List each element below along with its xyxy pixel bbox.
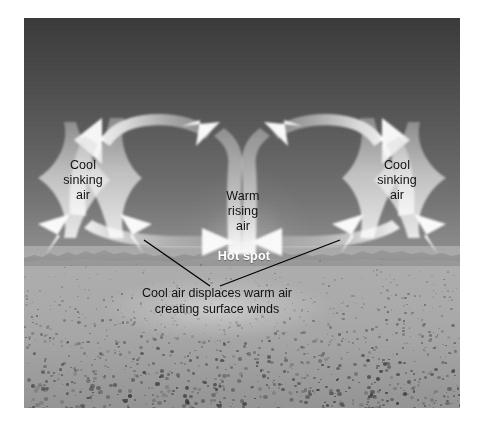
label-warm-rising-air: Warm rising air — [206, 189, 280, 234]
label-hot-spot: Hot spot — [200, 249, 288, 263]
figure-canvas: (function () { var host = document.curre… — [0, 0, 484, 429]
illustration-plate: (function () { var host = document.curre… — [24, 18, 460, 408]
label-cool-sinking-air-right: Cool sinking air — [360, 158, 434, 203]
label-surface-winds-caption: Cool air displaces warm air creating sur… — [94, 285, 340, 317]
label-cool-sinking-air-left: Cool sinking air — [46, 158, 120, 203]
desert-ground — [24, 246, 460, 408]
